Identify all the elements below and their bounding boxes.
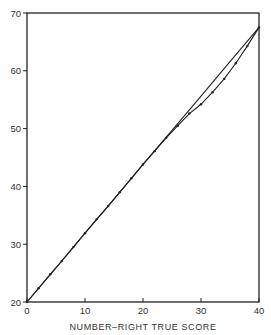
plot-frame [27, 13, 259, 302]
data-point [153, 150, 155, 152]
x-axis-title: NUMBER–RIGHT TRUE SCORE [70, 322, 217, 332]
data-point [188, 112, 190, 114]
data-point [61, 260, 63, 262]
data-point [223, 78, 225, 80]
x-tick-label: 20 [138, 305, 149, 316]
line-chart: 203040506070 010203040 NUMBER–RIGHT TRUE… [0, 0, 271, 335]
data-point [37, 287, 39, 289]
data-point [246, 45, 248, 47]
data-point [49, 273, 51, 275]
data-point [211, 91, 213, 93]
y-axis: 203040506070 [10, 8, 27, 308]
data-point [119, 191, 121, 193]
x-tick-label: 40 [254, 305, 265, 316]
data-point [165, 137, 167, 139]
data-point [107, 205, 109, 207]
data-point [258, 26, 260, 28]
x-axis: 010203040 [24, 298, 264, 316]
y-tick-label: 20 [10, 297, 21, 308]
data-point [130, 177, 132, 179]
data-point [84, 232, 86, 234]
y-tick-label: 60 [10, 65, 21, 76]
data-point [72, 246, 74, 248]
data-point [177, 125, 179, 127]
y-tick-label: 30 [10, 239, 21, 250]
data-point [142, 163, 144, 165]
data-series [26, 26, 260, 303]
data-point [26, 301, 28, 303]
y-tick-label: 50 [10, 123, 21, 134]
data-point [95, 218, 97, 220]
y-tick-label: 70 [10, 8, 21, 19]
y-tick-label: 40 [10, 181, 21, 192]
data-point [235, 62, 237, 64]
x-tick-label: 10 [80, 305, 91, 316]
x-tick-label: 30 [196, 305, 207, 316]
plot-border [27, 13, 259, 302]
x-tick-label: 0 [24, 305, 29, 316]
data-point [200, 103, 202, 105]
